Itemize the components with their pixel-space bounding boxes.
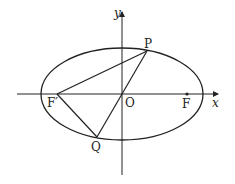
point-o-label: O: [125, 96, 135, 110]
ellipse-diagram: y x P O F F′ Q: [0, 0, 235, 184]
focus-f-dot: [185, 92, 188, 95]
point-p-label: P: [144, 37, 152, 51]
segment-fprime-p: [57, 51, 147, 94]
x-axis-label: x: [212, 96, 219, 110]
y-axis-label: y: [113, 6, 121, 20]
segment-fprime-q: [57, 94, 97, 137]
point-q-label: Q: [91, 140, 101, 154]
point-f-label: F: [182, 97, 190, 111]
point-fprime-label: F′: [47, 96, 58, 110]
